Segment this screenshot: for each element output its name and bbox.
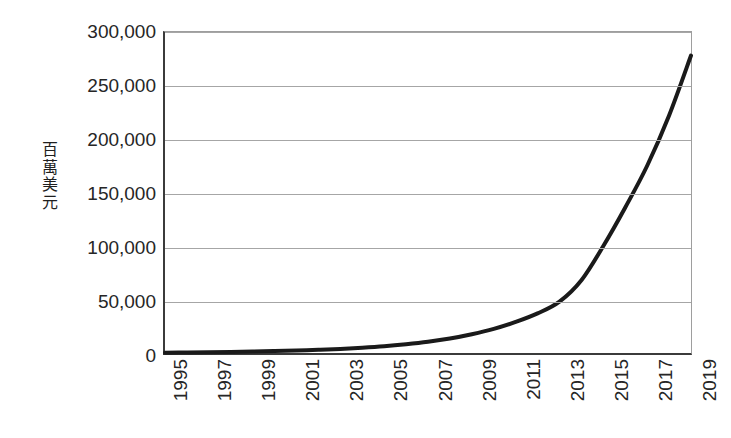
plot-area <box>163 31 692 355</box>
y-axis-title: 百 萬 美 元 <box>38 141 62 211</box>
y-axis-tick-label: 250,000 <box>60 76 156 95</box>
gridline <box>165 248 691 249</box>
y-axis-tick-label: 0 <box>60 346 156 365</box>
x-axis-tick-label: 1997 <box>215 359 234 401</box>
y-axis-tick-label: 100,000 <box>60 238 156 257</box>
x-axis-tick-label: 1999 <box>259 359 278 401</box>
x-axis-tick-label: 2019 <box>700 359 719 401</box>
series-line-layer <box>165 32 691 353</box>
y-axis-tick-label: 150,000 <box>60 184 156 203</box>
gridline <box>165 32 691 33</box>
x-axis-tick-label: 2017 <box>656 359 675 401</box>
x-axis-tick-label: 2005 <box>391 359 410 401</box>
gridline <box>165 302 691 303</box>
y-axis-tick-label: 50,000 <box>60 292 156 311</box>
x-axis-tick-label: 2011 <box>524 359 543 400</box>
y-axis-tick-labels: 300,000250,000200,000150,000100,00050,00… <box>60 0 156 438</box>
gridline <box>165 140 691 141</box>
chart-figure: 百 萬 美 元 300,000250,000200,000150,000100,… <box>0 0 731 438</box>
gridline <box>165 86 691 87</box>
x-axis-tick-label: 2001 <box>303 359 322 401</box>
x-axis-tick-label: 2013 <box>568 359 587 401</box>
y-axis-tick-label: 200,000 <box>60 130 156 149</box>
x-axis-tick-label: 2009 <box>480 359 499 401</box>
gridline <box>165 194 691 195</box>
x-axis-tick-label: 2007 <box>436 359 455 401</box>
x-axis-tick-label: 2003 <box>347 359 366 401</box>
x-axis-tick-label: 2015 <box>612 359 631 401</box>
y-axis-tick-label: 300,000 <box>60 22 156 41</box>
x-axis-tick-label: 1995 <box>171 359 190 401</box>
series-line-path <box>165 56 691 353</box>
x-axis-tick-labels: 1995199719992001200320052007200920112013… <box>163 359 692 438</box>
